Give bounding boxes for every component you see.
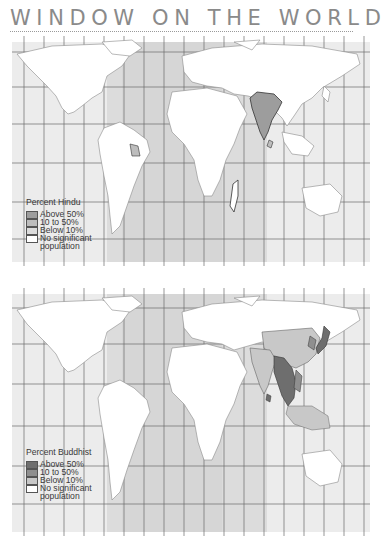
hindu-legend: Percent Hindu Above 50% 10 to 50% Below … [26,198,92,251]
legend-swatch [26,469,38,477]
legend-swatch [26,461,38,469]
legend-swatch [26,477,38,485]
legend-swatch [26,227,38,235]
legend-swatch [26,211,38,219]
legend-swatch [26,235,38,243]
buddhist-legend: Percent Buddhist Above 50% 10 to 50% Bel… [26,448,92,501]
buddhist-map: Percent Buddhist Above 50% 10 to 50% Bel… [12,288,370,536]
legend-continuation: population [26,492,92,501]
title-dotted-rule [10,31,353,32]
legend-swatch [26,485,38,493]
page-title: WINDOW ON THE WORLD [10,6,360,30]
legend-title: Percent Buddhist [26,448,92,457]
legend-title: Percent Hindu [26,198,92,207]
hindu-map: Percent Hindu Above 50% 10 to 50% Below … [12,36,370,266]
legend-swatch [26,219,38,227]
legend-continuation: population [26,242,92,251]
